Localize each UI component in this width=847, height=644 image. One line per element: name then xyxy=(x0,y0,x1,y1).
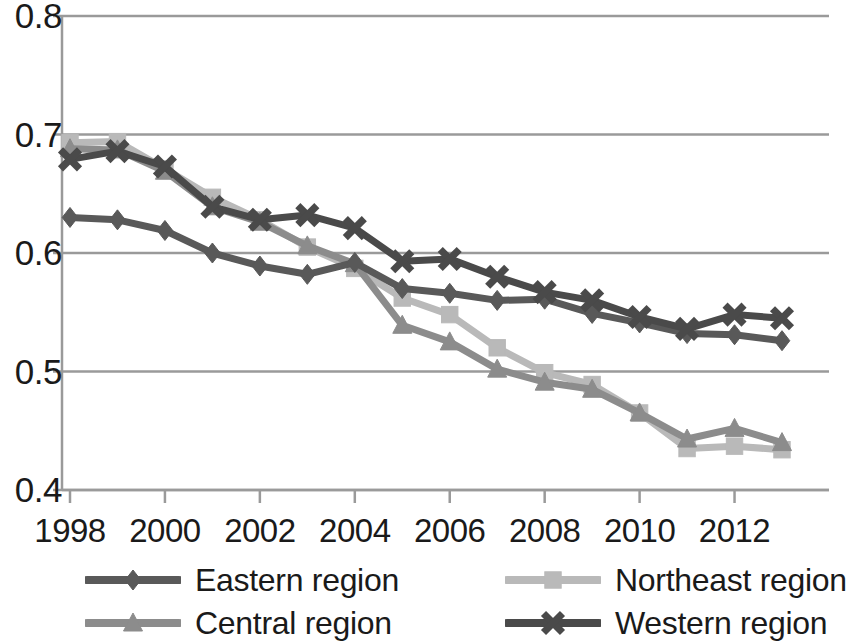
data-point xyxy=(110,210,126,230)
data-point xyxy=(62,207,78,227)
y-axis-tick-label: 0.7 xyxy=(0,117,62,152)
legend-label: Eastern region xyxy=(195,564,399,596)
data-point xyxy=(300,264,316,284)
series-northeast-region xyxy=(62,133,790,458)
y-axis-tick-label: 0.6 xyxy=(0,235,62,270)
data-point xyxy=(774,331,790,351)
legend-marker-diamond-icon xyxy=(85,563,181,597)
legend-item-northeast-region: Northeast region xyxy=(505,563,829,597)
legend-marker-x-icon xyxy=(505,606,601,640)
data-point xyxy=(252,256,268,276)
chart-legend: Eastern region Northeast region Central … xyxy=(85,558,829,644)
data-point xyxy=(205,243,221,263)
y-axis-tick-label: 0.8 xyxy=(0,0,62,33)
data-point xyxy=(726,438,742,454)
x-axis-tick-label: 2012 xyxy=(675,514,795,547)
y-axis-tick-label: 0.5 xyxy=(0,354,62,389)
legend-marker-triangle-icon xyxy=(85,606,181,640)
legend-item-eastern-region: Eastern region xyxy=(85,563,505,597)
legend-label: Northeast region xyxy=(615,564,847,596)
data-point xyxy=(489,340,505,356)
data-point xyxy=(489,290,505,310)
data-point xyxy=(442,306,458,322)
data-point xyxy=(442,283,458,303)
legend-item-central-region: Central region xyxy=(85,606,505,640)
legend-marker-square-icon xyxy=(505,563,601,597)
series-central-region xyxy=(61,139,792,451)
data-point xyxy=(727,325,743,345)
data-point xyxy=(157,220,173,240)
y-axis-tick-label: 0.4 xyxy=(0,472,62,507)
legend-label: Western region xyxy=(615,607,827,639)
legend-label: Central region xyxy=(195,607,392,639)
legend-item-western-region: Western region xyxy=(505,606,829,640)
